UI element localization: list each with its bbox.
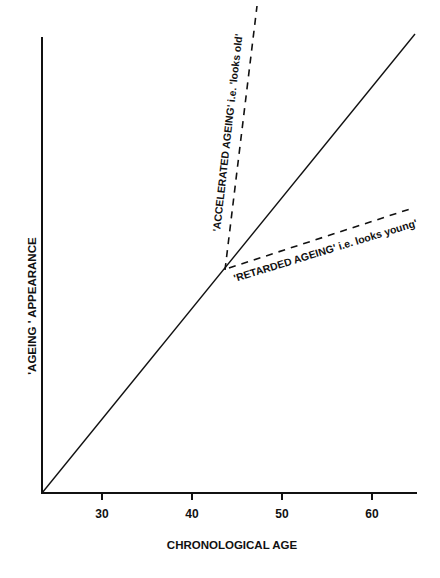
accelerated-ageing-label: 'ACCELERATED AGEING' i.e. 'looks old' <box>210 33 244 232</box>
x-ticks <box>102 493 372 500</box>
retarded-ageing-label: 'RETARDED AGEING' i.e. looks young' <box>232 217 418 284</box>
tick-label-30: 30 <box>95 507 109 521</box>
ageing-chart: 30 40 50 60 CHRONOLOGICAL AGE 'AGEING ' … <box>0 0 440 578</box>
tick-label-40: 40 <box>185 507 199 521</box>
x-axis-title: CHRONOLOGICAL AGE <box>167 539 298 551</box>
tick-label-60: 60 <box>365 507 379 521</box>
tick-label-50: 50 <box>275 507 289 521</box>
y-axis-title: 'AGEING ' APPEARANCE <box>26 237 38 375</box>
